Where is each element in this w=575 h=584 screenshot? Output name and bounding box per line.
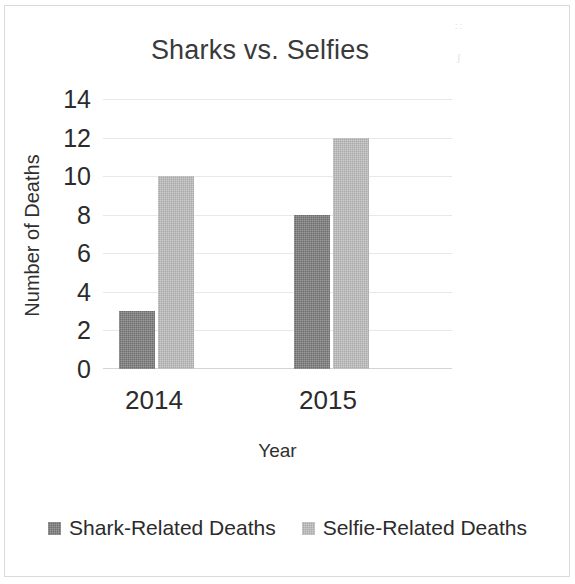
scan-artifact-speck-icon: ∷ [455,22,462,33]
legend-swatch-shark-icon [48,522,61,535]
x-axis-baseline [103,368,452,369]
legend-entry-selfie[interactable]: Selfie-Related Deaths [302,516,527,540]
chart-figure: ∷ ʃ Sharks vs. Selfies Number of Deaths … [0,0,575,584]
y-tick-label: 8 [31,202,91,227]
bar-selfie-2015[interactable] [333,138,369,369]
gridline [103,330,452,331]
legend-entry-shark[interactable]: Shark-Related Deaths [48,516,276,540]
plot-area [103,99,452,369]
bar-selfie-2014[interactable] [158,176,194,369]
category-label-2014: 2014 [67,385,241,416]
gridline [103,215,452,216]
bar-shark-2014[interactable] [119,311,155,369]
y-tick-label: 14 [31,87,91,112]
y-tick-label: 0 [31,357,91,382]
gridline [103,176,452,177]
y-tick-label: 2 [31,318,91,343]
gridline [103,138,452,139]
y-tick-label: 10 [31,164,91,189]
gridline [103,99,452,100]
gridline [103,292,452,293]
legend-label-selfie: Selfie-Related Deaths [323,516,527,540]
y-axis-title: Number of Deaths [21,126,44,346]
gridline [103,253,452,254]
bar-shark-2015[interactable] [294,215,330,369]
y-tick-label: 6 [31,241,91,266]
legend-label-shark: Shark-Related Deaths [69,516,276,540]
x-axis-category-labels: 2014 2015 [103,385,452,425]
chart-title: Sharks vs. Selfies [0,35,520,66]
chart-legend: Shark-Related Deaths Selfie-Related Deat… [0,516,575,540]
x-axis-title: Year [103,440,452,462]
legend-swatch-selfie-icon [302,522,315,535]
y-tick-label: 12 [31,125,91,150]
y-tick-label: 4 [31,279,91,304]
category-label-2015: 2015 [241,385,415,416]
